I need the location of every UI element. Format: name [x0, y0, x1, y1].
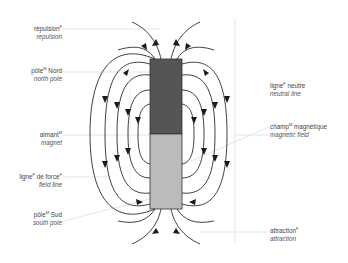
- arrow-icon: [136, 199, 143, 205]
- arrow-icon: [191, 117, 197, 124]
- label-en: neutral line: [270, 90, 305, 98]
- label-en: attraction: [270, 235, 298, 243]
- field-loop-left-3: [128, 90, 150, 178]
- arrow-icon: [152, 228, 159, 234]
- leader-south-pole: [63, 197, 158, 221]
- gender-mark: M: [59, 130, 62, 135]
- label-fr: ligne: [270, 82, 283, 89]
- field-loop-left-outer: [90, 54, 155, 214]
- label-fr-suffix: magnétique: [292, 123, 327, 130]
- arrow-icon: [123, 69, 129, 76]
- arrow-icon: [201, 148, 207, 155]
- label-en: magnetic field: [270, 131, 327, 139]
- label-south-pole: pôleM Sud south pole: [33, 211, 62, 227]
- label-neutral-line: ligneF neutre neutral line: [270, 82, 305, 98]
- field-line-bottom-2: [171, 209, 200, 244]
- bar-magnet: [150, 59, 182, 209]
- label-fr: champ: [270, 123, 289, 130]
- label-fr-suffix: de force: [35, 173, 60, 180]
- arrow-icon: [203, 69, 209, 76]
- field-line-top-4: [177, 47, 214, 59]
- north-pole-block: [150, 59, 182, 134]
- label-fr: répulsion: [34, 25, 60, 32]
- field-loop-left-4: [138, 104, 150, 164]
- label-fr: pôle: [31, 67, 43, 74]
- label-field-line: ligneF de forceF field line: [19, 173, 62, 189]
- label-magnetic-field: champM magnétique magnetic field: [270, 123, 327, 139]
- label-en: magnet: [40, 139, 62, 147]
- arrow-icon: [173, 228, 180, 234]
- label-en: south pole: [33, 219, 62, 227]
- field-loop-left-2: [117, 75, 150, 194]
- field-loop-right-2: [182, 75, 215, 194]
- arrow-icon: [135, 117, 141, 124]
- field-loop-right-3: [182, 90, 204, 178]
- label-fr: aimant: [40, 131, 59, 138]
- label-attraction: attractionF attraction: [270, 227, 298, 243]
- arrow-icon: [189, 199, 196, 205]
- label-magnet: aimantM magnet: [40, 131, 62, 147]
- label-en: repulsion: [34, 33, 62, 41]
- label-en: north pole: [31, 75, 62, 83]
- field-loop-right-4: [182, 104, 194, 164]
- label-fr: attraction: [270, 227, 296, 234]
- gender-mark: F: [60, 24, 62, 29]
- label-fr: ligne: [19, 173, 32, 180]
- label-en: field line: [19, 181, 62, 189]
- label-fr: pôle: [34, 211, 46, 218]
- field-line-bottom-4: [177, 209, 214, 222]
- south-pole-block: [150, 134, 182, 209]
- gender-mark: F: [296, 226, 298, 231]
- label-north-pole: pôleM Nord north pole: [31, 67, 62, 83]
- label-fr-suffix: Sud: [49, 211, 62, 218]
- label-fr-suffix: neutre: [286, 82, 306, 89]
- label-repulsion: répulsionF repulsion: [34, 25, 62, 41]
- gender-mark: F: [60, 172, 62, 177]
- label-fr-suffix: Nord: [47, 67, 62, 74]
